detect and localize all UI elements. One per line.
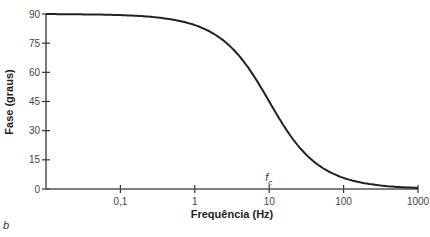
x-tick-label: 10: [264, 196, 276, 207]
x-tick-label: 1000: [407, 196, 430, 207]
cutoff-frequency-annotation: fc: [265, 171, 272, 187]
y-tick-label: 60: [29, 67, 41, 78]
y-tick-label: 45: [29, 96, 41, 107]
x-axis-title: Frequência (Hz): [191, 208, 274, 220]
y-tick-label: 30: [29, 125, 41, 136]
x-tick-label: 100: [335, 196, 352, 207]
phase-curve: [46, 14, 418, 188]
y-tick-label: 90: [29, 9, 41, 20]
x-tick-label: 1: [192, 196, 198, 207]
y-tick-label: 75: [29, 38, 41, 49]
y-axis-title: Fase (graus): [3, 69, 15, 135]
y-tick-label: 0: [34, 184, 40, 195]
phase-chart: 0153045607590 0,11101001000 fc Fase (gra…: [0, 0, 430, 237]
panel-label: b: [3, 219, 9, 231]
x-axis-ticks: 0,11101001000: [113, 185, 429, 207]
y-axis-ticks: 0153045607590: [29, 9, 50, 195]
x-tick-label: 0,1: [113, 196, 127, 207]
y-tick-label: 15: [29, 154, 41, 165]
